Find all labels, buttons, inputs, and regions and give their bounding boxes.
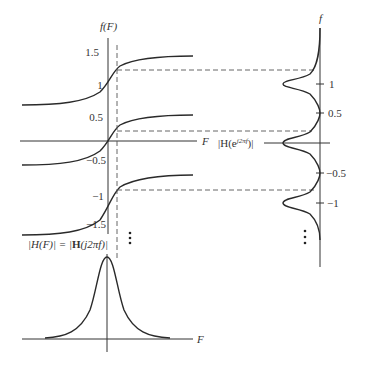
dot-icon	[129, 232, 132, 235]
right-axis-label: |H(ej2πf)|	[218, 137, 253, 150]
bottom-plot: |H(F)| = |H(j2πf)| F	[22, 238, 204, 352]
dot-icon	[304, 230, 307, 233]
frequency-mapping-diagram: f(F) F 1.5 1 0.5 −0.5 −1 −1.5 f |H(ej2πf…	[0, 0, 366, 371]
tick-0.5: 0.5	[89, 111, 103, 123]
tick-neg1.5: −1.5	[86, 218, 106, 230]
right-plot: f |H(ej2πf)| 1 0.5 −0.5 −1	[218, 12, 346, 267]
f-tick-neg0.5: −0.5	[326, 167, 346, 179]
dot-icon	[304, 236, 307, 239]
tick-neg0.5: −0.5	[86, 154, 106, 166]
tick-neg1: −1	[92, 190, 104, 202]
left-y-axis-label: f(F)	[100, 20, 117, 33]
f-tick-0.5: 0.5	[328, 107, 342, 119]
left-x-axis-label: F	[201, 135, 209, 147]
left-plot: f(F) F 1.5 1 0.5 −0.5 −1 −1.5	[20, 20, 316, 258]
dot-icon	[129, 237, 132, 240]
dot-icon	[304, 242, 307, 245]
bottom-plot-label: |H(F)| = |H(j2πf)|	[28, 238, 108, 251]
dot-icon	[129, 242, 132, 245]
f-tick-1: 1	[329, 78, 335, 90]
right-y-axis-label: f	[319, 12, 324, 24]
bottom-x-axis-label: F	[196, 333, 204, 345]
tick-1.5: 1.5	[85, 46, 99, 58]
periodic-magnitude-curve	[283, 28, 320, 240]
f-tick-neg1: −1	[327, 197, 339, 209]
